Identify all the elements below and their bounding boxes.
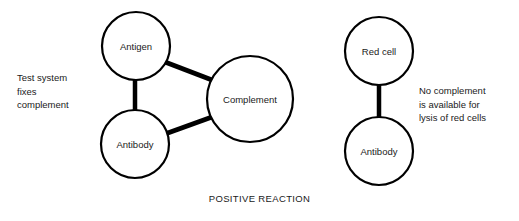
node-antibody-left-label: Antibody	[117, 139, 154, 150]
node-red-cell-label: Red cell	[362, 46, 396, 57]
link-antigen-complement	[165, 62, 212, 80]
diagram-caption: POSITIVE REACTION	[0, 193, 519, 204]
node-complement-label: Complement	[223, 94, 277, 105]
annotation-indicator-system: No complement is available for lysis of …	[419, 84, 517, 125]
link-antibody-complement	[165, 117, 212, 134]
node-antibody-right-label: Antibody	[361, 146, 398, 157]
group-test-system: Antigen Antibody Complement	[101, 12, 293, 178]
annotation-test-system: Test system fixes complement	[17, 71, 103, 112]
node-antigen-label: Antigen	[120, 41, 152, 52]
diagram-canvas: Antigen Antibody Complement Red cell Ant…	[0, 0, 519, 221]
group-indicator-system: Red cell Antibody	[345, 17, 413, 185]
